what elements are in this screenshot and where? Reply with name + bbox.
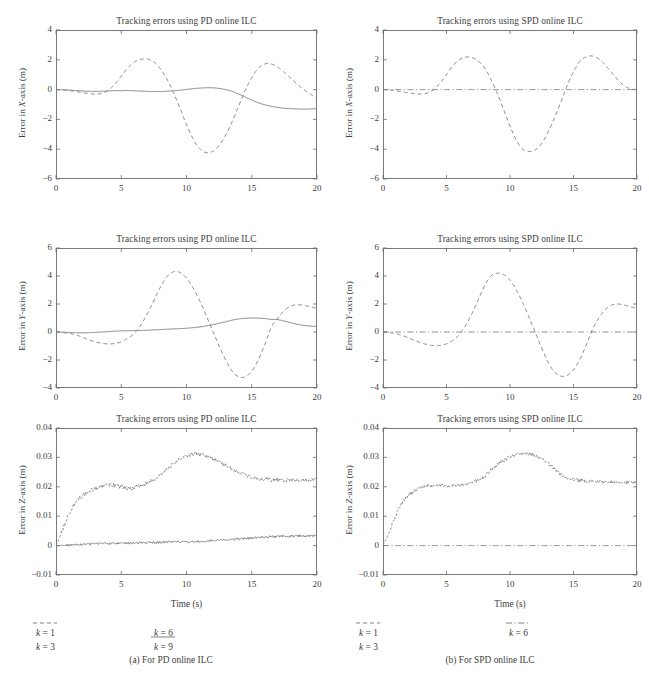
y-tick-label: −2: [345, 354, 379, 364]
series-line: [56, 318, 317, 333]
subplot-pd-y: Tracking errors using PD online ILCError…: [56, 248, 317, 388]
subplot-pd-z: Tracking errors using PD online ILCError…: [56, 428, 317, 575]
x-tick-label: 15: [562, 183, 586, 193]
legend-line-sample: [355, 632, 381, 642]
subplot-spd-z: Tracking errors using SPD online ILCErro…: [383, 428, 637, 575]
legend-label: k = 9: [154, 642, 173, 652]
x-tick-label: 15: [240, 579, 264, 589]
y-tick-label: 0: [18, 326, 52, 336]
y-tick-label: 0.01: [18, 510, 52, 520]
y-tick-label: −0.01: [345, 569, 379, 579]
y-tick-label: 4: [18, 270, 52, 280]
y-tick-label: 0: [18, 84, 52, 94]
y-tick-label: 0.03: [345, 451, 379, 461]
y-tick-label: 2: [345, 298, 379, 308]
x-tick-label: 15: [562, 392, 586, 402]
x-tick-label: 10: [175, 183, 199, 193]
legend-line-sample: [32, 632, 58, 642]
legend-entry: k = 3: [355, 632, 381, 652]
subfigure-caption-left: (a) For PD online ILC: [14, 655, 328, 665]
x-tick-label: 10: [498, 579, 522, 589]
x-tick-label: 15: [562, 579, 586, 589]
y-tick-label: −0.01: [18, 569, 52, 579]
y-tick-label: 0: [345, 84, 379, 94]
legend-line-sample: [32, 618, 58, 628]
x-tick-label: 5: [435, 392, 459, 402]
series-line: [56, 59, 317, 153]
series-line: [56, 88, 317, 109]
subfigure-caption-right: (b) For SPD online ILC: [340, 655, 640, 665]
y-tick-label: 2: [18, 54, 52, 64]
x-tick-label: 0: [44, 392, 68, 402]
legend-label: k = 6: [509, 628, 528, 638]
y-tick-label: −4: [18, 382, 52, 392]
subplot-pd-x: Tracking errors using PD online ILCError…: [56, 30, 317, 179]
x-tick-label: 5: [109, 183, 133, 193]
series-line: [383, 273, 637, 376]
legend-label: k = 3: [36, 642, 55, 652]
y-tick-label: −4: [345, 382, 379, 392]
y-tick-label: 6: [18, 242, 52, 252]
y-tick-label: 0: [345, 326, 379, 336]
y-tick-label: 0.02: [345, 481, 379, 491]
x-tick-label: 5: [109, 392, 133, 402]
x-tick-label: 20: [625, 579, 649, 589]
y-tick-label: 0.02: [18, 481, 52, 491]
y-tick-label: 0.04: [18, 422, 52, 432]
x-tick-label: 10: [175, 392, 199, 402]
y-tick-label: 0: [18, 540, 52, 550]
plot-title: Tracking errors using PD online ILC: [56, 234, 317, 244]
figure-root: Tracking errors using PD online ILCError…: [0, 0, 649, 680]
y-tick-label: −6: [345, 173, 379, 183]
y-tick-label: −2: [18, 113, 52, 123]
axis-frame: [384, 31, 637, 179]
legend-entry: k = 6: [505, 618, 531, 638]
y-tick-label: 0.03: [18, 451, 52, 461]
x-tick-label: 20: [305, 392, 329, 402]
plot-title: Tracking errors using PD online ILC: [56, 414, 317, 424]
y-tick-label: −2: [345, 113, 379, 123]
y-tick-label: 0: [345, 540, 379, 550]
x-tick-label: 5: [109, 579, 133, 589]
x-tick-label: 20: [625, 392, 649, 402]
x-tick-label: 0: [44, 579, 68, 589]
y-tick-label: 0.04: [345, 422, 379, 432]
y-axis-label: Error in X-axis (m): [344, 48, 354, 158]
y-tick-label: 4: [345, 270, 379, 280]
axis-frame: [57, 429, 317, 575]
y-tick-label: −4: [345, 143, 379, 153]
y-tick-label: 6: [345, 242, 379, 252]
x-tick-label: 15: [240, 183, 264, 193]
axis-frame: [57, 31, 317, 179]
plot-area: [383, 248, 637, 388]
subplot-spd-x: Tracking errors using SPD online ILCErro…: [383, 30, 637, 179]
subplot-spd-y: Tracking errors using SPD online ILCErro…: [383, 248, 637, 388]
x-tick-label: 20: [625, 183, 649, 193]
plot-area: [56, 248, 317, 388]
series-line: [383, 452, 637, 545]
y-tick-label: 4: [18, 24, 52, 34]
y-tick-label: 0.01: [345, 510, 379, 520]
plot-title: Tracking errors using SPD online ILC: [383, 16, 637, 26]
legend-entry: k = 3: [32, 632, 58, 652]
plot-title: Tracking errors using SPD online ILC: [383, 234, 637, 244]
y-tick-label: 2: [18, 298, 52, 308]
plot-area: [56, 428, 317, 575]
plot-area: [56, 30, 317, 179]
legend-line-sample: [150, 632, 176, 642]
x-tick-label: 0: [371, 183, 395, 193]
x-tick-label: 20: [305, 579, 329, 589]
series-line: [56, 535, 317, 546]
x-axis-label: Time (s): [383, 599, 637, 609]
x-tick-label: 5: [435, 183, 459, 193]
legend-line-sample: [505, 618, 531, 628]
x-axis-label: Time (s): [56, 599, 317, 609]
x-tick-label: 5: [435, 579, 459, 589]
plot-area: [383, 428, 637, 575]
legend-line-sample: [355, 618, 381, 628]
x-tick-label: 10: [175, 579, 199, 589]
plot-title: Tracking errors using PD online ILC: [56, 16, 317, 26]
y-tick-label: −6: [18, 173, 52, 183]
plot-area: [383, 30, 637, 179]
series-line: [56, 271, 317, 377]
